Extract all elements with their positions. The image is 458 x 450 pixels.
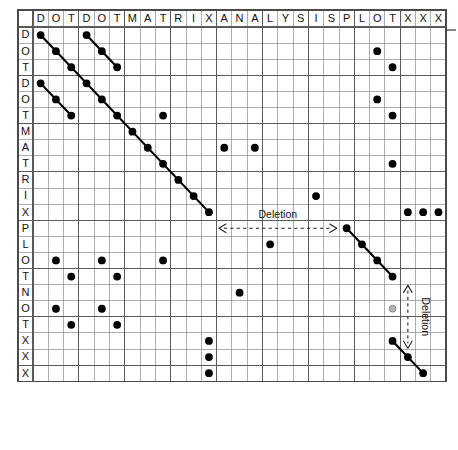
match-dot xyxy=(159,160,167,168)
row-header-label: T xyxy=(22,157,29,169)
match-dot xyxy=(190,192,198,200)
match-dot xyxy=(113,273,121,281)
match-dot xyxy=(113,321,121,329)
match-dot xyxy=(358,240,366,248)
match-dot xyxy=(419,369,427,377)
match-dot xyxy=(67,112,75,120)
column-header-label: R xyxy=(174,12,182,24)
grid-minor-lines xyxy=(18,10,446,381)
match-dot xyxy=(312,192,320,200)
match-dot xyxy=(37,79,45,87)
column-header-label: T xyxy=(114,12,121,24)
match-dot xyxy=(251,144,259,152)
column-header-label: X xyxy=(205,12,213,24)
match-dot xyxy=(373,96,381,104)
column-header-label: O xyxy=(52,12,61,24)
column-header-label: T xyxy=(68,12,75,24)
match-dot xyxy=(205,369,213,377)
match-dot xyxy=(159,257,167,265)
column-header-label: X xyxy=(419,12,427,24)
match-dot xyxy=(404,208,412,216)
column-header-label: P xyxy=(343,12,350,24)
column-header-label: O xyxy=(373,12,382,24)
match-dot xyxy=(67,273,75,281)
column-header-label: Y xyxy=(282,12,290,24)
match-dot-faded xyxy=(389,305,396,312)
match-dot xyxy=(419,208,427,216)
deletion-label-vertical: Deletion xyxy=(420,298,432,337)
match-dot xyxy=(174,176,182,184)
match-dot xyxy=(83,79,91,87)
column-header-label: L xyxy=(359,12,365,24)
row-header-label: O xyxy=(21,93,30,105)
match-dot xyxy=(389,63,397,71)
column-header-label: A xyxy=(144,12,152,24)
row-header-label: X xyxy=(22,367,30,379)
match-dot xyxy=(373,257,381,265)
match-dot xyxy=(52,96,60,104)
row-header-label: P xyxy=(22,222,29,234)
match-dot xyxy=(343,224,351,232)
match-dot xyxy=(144,144,152,152)
match-dot xyxy=(67,63,75,71)
match-dot xyxy=(98,96,106,104)
match-dot xyxy=(205,337,213,345)
row-header-label: L xyxy=(22,238,28,250)
row-header-label: I xyxy=(24,189,27,201)
column-header-label: T xyxy=(389,12,396,24)
row-header-label: M xyxy=(21,125,30,137)
column-header-label: S xyxy=(328,12,335,24)
match-dot xyxy=(373,47,381,55)
match-dot xyxy=(37,31,45,39)
row-header-label: N xyxy=(22,286,30,298)
column-header-label: D xyxy=(83,12,91,24)
dot-matrix-figure: DOTDOTMATRIXANALYSISPLOTXXX DOTDOTMATRIX… xyxy=(0,0,458,450)
column-header-label: S xyxy=(297,12,304,24)
match-dot xyxy=(52,305,60,313)
row-header-label: O xyxy=(21,45,30,57)
match-dot xyxy=(389,273,397,281)
column-header-label: A xyxy=(251,12,259,24)
match-dot xyxy=(435,208,443,216)
match-dot xyxy=(98,257,106,265)
match-dot xyxy=(98,47,106,55)
row-header-label: O xyxy=(21,302,30,314)
match-dot xyxy=(205,208,213,216)
row-header-label: D xyxy=(22,77,30,89)
row-header-label: R xyxy=(22,173,30,185)
row-header-label: X xyxy=(22,206,30,218)
deletion-arrowhead-right xyxy=(330,224,337,232)
match-dot xyxy=(52,47,60,55)
match-dot xyxy=(236,289,244,297)
column-header-label: I xyxy=(192,12,195,24)
match-dot xyxy=(67,321,75,329)
row-header-label: T xyxy=(22,318,29,330)
match-dot xyxy=(98,305,106,313)
column-header-labels: DOTDOTMATRIXANALYSISPLOTXXX xyxy=(37,12,443,24)
match-dot xyxy=(159,112,167,120)
match-dot xyxy=(266,240,274,248)
column-header-label: A xyxy=(221,12,229,24)
match-dot xyxy=(113,63,121,71)
column-header-label: L xyxy=(267,12,273,24)
match-dot xyxy=(52,257,60,265)
column-header-label: M xyxy=(128,12,137,24)
row-header-labels: DOTDOTMATRIXPLOTNOTXXX xyxy=(21,28,30,378)
row-header-label: X xyxy=(22,350,30,362)
match-dot xyxy=(404,353,412,361)
column-header-label: X xyxy=(404,12,412,24)
match-dot xyxy=(389,337,397,345)
column-header-label: T xyxy=(160,12,167,24)
column-header-label: N xyxy=(236,12,244,24)
row-header-label: T xyxy=(22,61,29,73)
column-header-label: D xyxy=(37,12,45,24)
dot-matrix-plot-svg: DOTDOTMATRIXANALYSISPLOTXXX DOTDOTMATRIX… xyxy=(0,0,458,450)
row-header-label: O xyxy=(21,254,30,266)
row-header-label: T xyxy=(22,109,29,121)
column-header-label: O xyxy=(98,12,107,24)
match-dot xyxy=(389,160,397,168)
match-dot xyxy=(220,144,228,152)
match-dot xyxy=(83,31,91,39)
column-header-label: I xyxy=(315,12,318,24)
row-header-label: D xyxy=(22,28,30,40)
